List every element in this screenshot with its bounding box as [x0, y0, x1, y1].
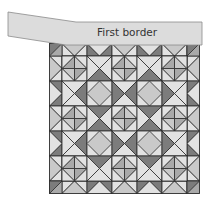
quilt-diagram: First border — [0, 0, 212, 202]
quilt-body — [50, 44, 200, 194]
first-border-label: First border — [0, 26, 212, 38]
